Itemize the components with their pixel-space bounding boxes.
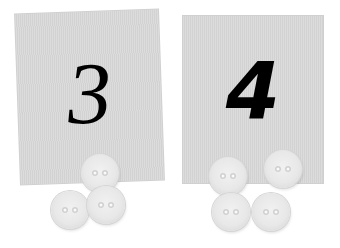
button-icon <box>212 193 250 231</box>
button-icon <box>87 186 125 224</box>
digit-label: 3 <box>16 48 162 141</box>
button-icon <box>51 191 89 229</box>
button-icon <box>252 193 290 231</box>
digit-label: 4 <box>183 52 323 130</box>
button-icon <box>264 150 302 188</box>
number-card-4: 4 <box>183 16 323 183</box>
button-icon <box>209 157 247 195</box>
